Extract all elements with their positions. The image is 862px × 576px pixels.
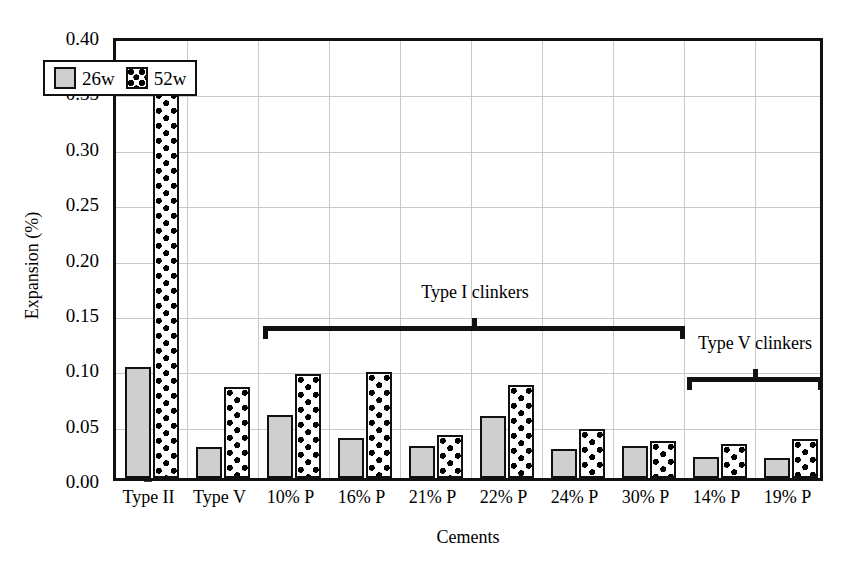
dot-pattern-fill [297, 376, 319, 476]
bar-26w [267, 415, 293, 478]
plot-area [113, 38, 823, 481]
bar-group [187, 41, 258, 478]
bar-52w [295, 374, 321, 478]
bar-series-container [116, 41, 820, 478]
annotation-label-type-v-clinkers: Type V clinkers [625, 333, 862, 354]
bar-group [542, 41, 613, 478]
x-tick-label: Type V [193, 487, 246, 508]
legend-entry-26w: 26w [54, 67, 115, 89]
x-tick-label: 22% P [480, 487, 528, 508]
bar-52w [366, 372, 392, 478]
x-tick-label: 10% P [267, 487, 315, 508]
dot-pattern-fill [439, 437, 461, 476]
x-tick-label: 19% P [764, 487, 812, 508]
dot-pattern-fill [723, 446, 745, 476]
bar-52w [721, 444, 747, 478]
x-tick-label: Type II [122, 487, 174, 508]
bar-26w [622, 446, 648, 478]
bar-26w [764, 458, 790, 478]
bar-group [400, 41, 471, 478]
gray-solid-swatch-icon [54, 67, 76, 89]
dot-pattern-fill [652, 443, 674, 476]
y-tick-mark [144, 481, 152, 482]
bar-group [116, 41, 187, 478]
bar-52w [579, 429, 605, 478]
x-axis-tick-labels: Type IIType V10% P16% P21% P22% P24% P30… [113, 487, 823, 515]
x-tick-label: 14% P [693, 487, 741, 508]
bar-group [329, 41, 400, 478]
dot-pattern-fill [510, 387, 532, 476]
y-tick-label: 0.25 [37, 195, 99, 214]
chart-legend: 26w 52w [43, 60, 197, 96]
bar-group [684, 41, 755, 478]
bar-26w [409, 446, 435, 478]
y-tick-label: 0.05 [37, 416, 99, 435]
bar-26w [551, 449, 577, 478]
bar-52w [508, 385, 534, 478]
bar-26w [338, 438, 364, 478]
bar-52w [224, 387, 250, 478]
dot-pattern-fill [794, 441, 816, 476]
bar-26w [196, 447, 222, 478]
legend-entry-52w: 52w [126, 67, 187, 89]
bar-26w [125, 367, 151, 478]
x-tick-label: 30% P [622, 487, 670, 508]
y-tick-label: 0.40 [37, 29, 99, 48]
x-axis-title: Cements [113, 527, 823, 548]
bar-52w [792, 439, 818, 478]
dot-pattern-fill [368, 374, 390, 476]
bracket-cap-right [818, 377, 823, 390]
x-tick-label: 24% P [551, 487, 599, 508]
bar-26w [480, 416, 506, 478]
bracket-center-nub [472, 318, 477, 327]
bar-26w [693, 457, 719, 478]
y-tick-label: 0.00 [37, 472, 99, 491]
bar-52w [437, 435, 463, 478]
bracket-cap-left [263, 326, 268, 339]
y-tick-label: 0.10 [37, 361, 99, 380]
bracket-center-nub [753, 369, 758, 378]
x-tick-label: 16% P [338, 487, 386, 508]
dot-pattern-fill [155, 92, 177, 476]
y-tick-label: 0.15 [37, 305, 99, 324]
bar-52w [153, 90, 179, 478]
bracket-cap-left [687, 377, 692, 390]
bar-52w [650, 441, 676, 478]
legend-label-52w: 52w [154, 69, 187, 88]
dot-pattern-fill [581, 431, 603, 476]
bar-group [258, 41, 329, 478]
bar-group [755, 41, 826, 478]
annotation-label-type-i-clinkers: Type I clinkers [345, 282, 605, 303]
dot-pattern-fill [226, 389, 248, 476]
expansion-bar-chart: Expansion (%) 0.000.050.100.150.200.250.… [0, 0, 862, 576]
y-tick-label: 0.30 [37, 139, 99, 158]
bar-group [613, 41, 684, 478]
bar-group [471, 41, 542, 478]
legend-label-26w: 26w [82, 69, 115, 88]
x-tick-label: 21% P [409, 487, 457, 508]
dotted-swatch-icon [126, 67, 148, 89]
y-tick-label: 0.20 [37, 250, 99, 269]
